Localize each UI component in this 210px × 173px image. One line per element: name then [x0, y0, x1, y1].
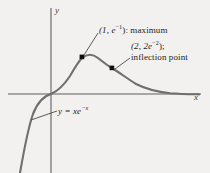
- leader-line-inflection: [115, 58, 130, 69]
- function-curve: [20, 55, 199, 173]
- inflection-annotation-tail: );: [159, 41, 165, 51]
- figure-container: y x (1, e−1): maximum (2, 2e−2); inflect…: [0, 0, 210, 173]
- leader-line-equation: [31, 111, 57, 120]
- inflection-annotation-exponent: −2: [152, 39, 159, 46]
- equation-annotation: y = xe−x: [58, 106, 88, 117]
- y-axis-label: y: [55, 5, 59, 15]
- inflection-point-marker: [110, 66, 115, 71]
- maximum-annotation-head: (1, e: [99, 25, 116, 35]
- maximum-point-marker: [80, 55, 85, 60]
- equation-annotation-exponent: −x: [81, 104, 88, 111]
- x-axis-label: x: [194, 92, 198, 102]
- maximum-annotation-tail: ): maximum: [122, 25, 167, 35]
- leader-line-maximum: [84, 33, 98, 55]
- maximum-annotation-exponent: −1: [116, 23, 123, 30]
- inflection-annotation-line2: inflection point: [131, 52, 188, 63]
- inflection-annotation-head: (2, 2e: [131, 41, 152, 51]
- equation-annotation-lhs: y = xe: [58, 106, 81, 116]
- maximum-annotation: (1, e−1): maximum: [99, 25, 168, 36]
- inflection-annotation: (2, 2e−2); inflection point: [131, 41, 188, 63]
